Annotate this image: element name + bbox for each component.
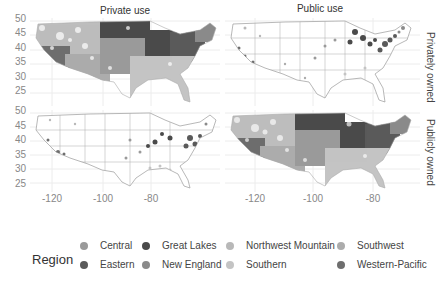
legend-dot-icon <box>142 242 150 250</box>
x-tick-label: -100 <box>298 193 328 204</box>
legend-dot-icon <box>226 261 234 269</box>
y-tick-label: 50 <box>2 105 26 116</box>
legend-label: Southwest <box>357 240 404 251</box>
legend-label: Eastern <box>100 259 134 270</box>
legend-dot-icon <box>226 242 234 250</box>
legend-item-new-england: New England <box>142 259 221 270</box>
legend-item-western-pacific: Western-Pacific <box>337 259 427 270</box>
legend-label: Southern <box>246 259 287 270</box>
y-tick-label: 40 <box>2 42 26 53</box>
legend-title: Region <box>32 252 73 267</box>
legend-item-northwest-mountain: Northwest Mountain <box>226 240 335 251</box>
facet-strip-publicly-owned: Publicly owned <box>425 112 436 192</box>
legend-label: Western-Pacific <box>357 259 427 270</box>
y-tick-label: 50 <box>2 13 26 24</box>
panel-public-use-publicly-owned <box>225 110 420 192</box>
panel-private-use-publicly-owned <box>30 110 220 192</box>
x-tick-label: -80 <box>358 193 388 204</box>
legend-dot-icon <box>142 261 150 269</box>
legend-label: Great Lakes <box>162 240 216 251</box>
facet-strip-privately-owned: Privately owned <box>425 22 436 112</box>
legend-item-great-lakes: Great Lakes <box>142 240 216 251</box>
facet-title-private-use: Private use <box>60 5 190 16</box>
y-tick-label: 40 <box>2 134 26 145</box>
y-tick-label: 45 <box>2 27 26 38</box>
legend-dot-icon <box>337 261 345 269</box>
y-tick-label: 35 <box>2 56 26 67</box>
legend-item-southern: Southern <box>226 259 287 270</box>
legend-label: Central <box>100 240 132 251</box>
y-tick-label: 25 <box>2 178 26 189</box>
legend-dot-icon <box>80 242 88 250</box>
x-tick-label: -120 <box>240 193 270 204</box>
y-tick-label: 45 <box>2 120 26 131</box>
panel-private-use-privately-owned <box>30 18 220 106</box>
x-tick-label: -120 <box>37 193 67 204</box>
x-tick-label: -80 <box>136 193 166 204</box>
y-tick-label: 25 <box>2 85 26 96</box>
legend-label: New England <box>162 259 221 270</box>
faceted-map-chart: Private use Public use Privately owned P… <box>0 0 446 282</box>
y-tick-label: 30 <box>2 71 26 82</box>
y-tick-label: 30 <box>2 163 26 174</box>
legend-item-southwest: Southwest <box>337 240 404 251</box>
legend-dot-icon <box>337 242 345 250</box>
legend-dot-icon <box>80 261 88 269</box>
legend-item-eastern: Eastern <box>80 259 134 270</box>
facet-title-public-use: Public use <box>255 3 385 14</box>
legend-label: Northwest Mountain <box>246 240 335 251</box>
legend-item-central: Central <box>80 240 132 251</box>
panel-public-use-privately-owned <box>225 18 420 106</box>
x-tick-label: -100 <box>88 193 118 204</box>
y-tick-label: 35 <box>2 149 26 160</box>
